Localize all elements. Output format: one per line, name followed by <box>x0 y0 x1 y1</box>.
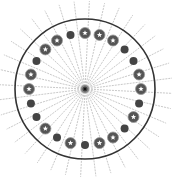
star-dot <box>108 35 119 46</box>
spoke-line <box>74 2 85 89</box>
dark-dot <box>67 31 75 39</box>
spoke-line <box>85 8 119 89</box>
spoke-line <box>59 5 85 89</box>
star-dot <box>80 28 91 39</box>
dark-dot <box>27 99 35 107</box>
star-dot <box>40 123 51 134</box>
spoke-line <box>85 63 169 89</box>
spoke-line <box>81 89 85 177</box>
spoke-line <box>85 89 172 93</box>
spoke-line <box>85 89 96 176</box>
dark-dot <box>121 45 129 53</box>
spoke-line <box>85 78 172 89</box>
star-dot <box>24 84 35 95</box>
center-hub <box>81 85 89 93</box>
dark-dot <box>135 99 143 107</box>
spoke-line <box>85 89 166 123</box>
dark-dot <box>129 57 137 65</box>
spoke-line <box>4 55 85 89</box>
star-dot <box>94 138 105 149</box>
spoke-line <box>85 1 89 89</box>
star-dot <box>136 84 147 95</box>
star-dot <box>134 69 145 80</box>
star-dot <box>108 132 119 143</box>
star-dot <box>40 44 51 55</box>
dark-dot <box>81 141 89 149</box>
dark-dot <box>53 133 61 141</box>
star-dot <box>52 35 63 46</box>
dark-dot <box>121 125 129 133</box>
spoke-line <box>1 89 85 115</box>
star-dot <box>25 69 36 80</box>
star-dot <box>128 112 139 123</box>
spoke-line <box>0 85 85 89</box>
dark-dot <box>33 57 41 65</box>
spoke-line <box>51 89 85 170</box>
spoke-line <box>0 69 85 89</box>
star-dot <box>94 29 105 40</box>
star-dot <box>65 138 76 149</box>
radial-diagram <box>0 0 172 178</box>
spoke-line <box>85 89 111 173</box>
dark-dot <box>33 113 41 121</box>
